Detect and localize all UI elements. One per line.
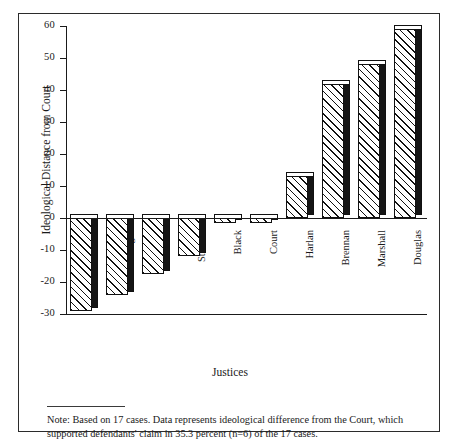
figure-frame: Ideological Distance from Court 60504030… (18, 13, 440, 432)
zero-baseline (66, 218, 427, 219)
x-tick-label-marshall: Marshall (376, 230, 387, 320)
bar-front-face (358, 64, 380, 218)
bar-side-face (128, 215, 134, 292)
y-axis-tick-label: 30 (21, 116, 55, 126)
y-axis-tick-label: 0 (21, 212, 55, 222)
bar-burger[interactable] (102, 26, 138, 314)
figure-note: Note: Based on 17 cases. Data represents… (47, 413, 439, 441)
y-axis-tick-label: 10 (21, 180, 55, 190)
y-axis-tick-label: 50 (21, 52, 55, 62)
bar-top-cap (394, 25, 422, 30)
y-axis-tick-label: 20 (21, 148, 55, 158)
note-separator-rule (47, 406, 125, 407)
chart-panel: Ideological Distance from Court 60504030… (19, 14, 441, 379)
bar-front-face (394, 29, 416, 218)
x-tick-label-brennan: Brennan (340, 230, 351, 320)
bar-side-face (416, 26, 422, 215)
plot-area (66, 26, 426, 314)
y-axis-tick-label: 60 (21, 20, 55, 30)
bar-side-face (164, 215, 170, 271)
bar-front-face (142, 218, 164, 274)
y-axis-tick-label: -10 (21, 244, 55, 254)
bar-side-face (308, 173, 314, 215)
x-tick-label-harlan: Harlan (304, 230, 315, 320)
bar-side-face (92, 215, 98, 308)
bar-top-cap (322, 80, 350, 85)
bar-blackmun[interactable] (66, 26, 102, 314)
bar-top-cap (286, 172, 314, 177)
bar-front-face (106, 218, 128, 295)
bar-front-face (70, 218, 92, 311)
x-tick-label-douglas: Douglas (412, 230, 423, 320)
bar-front-face (178, 218, 200, 256)
x-axis-title: Justices (19, 366, 441, 378)
bar-side-face (200, 215, 206, 253)
plot-bottom-line (66, 314, 427, 315)
y-axis-tick-label: 40 (21, 84, 55, 94)
bar-white[interactable] (138, 26, 174, 314)
x-tick-label-court: Court (268, 230, 279, 320)
y-axis-tick-label: -20 (21, 276, 55, 286)
bar-side-face (380, 61, 386, 215)
bar-front-face (286, 176, 308, 218)
y-axis-tick (60, 314, 66, 315)
bar-side-face (344, 81, 350, 215)
bar-top-cap (358, 60, 386, 65)
bar-front-face (322, 84, 344, 218)
x-tick-label-black: Black (232, 230, 243, 320)
y-axis-tick-label: -30 (21, 308, 55, 318)
